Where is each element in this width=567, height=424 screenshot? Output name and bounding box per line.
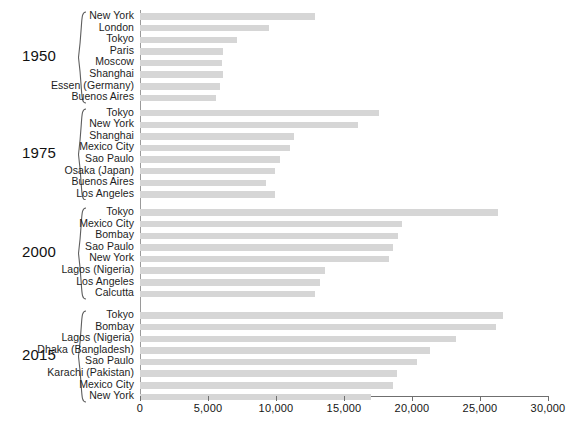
bar (140, 191, 275, 197)
chart-group-2000: 2000TokyoMexico CityBombaySao PauloNew Y… (0, 207, 567, 300)
bar (140, 37, 237, 43)
bar (140, 370, 397, 376)
bar (140, 394, 371, 400)
bar-category-label: New York (0, 118, 134, 130)
bar (140, 60, 222, 66)
bar (140, 209, 498, 215)
bar-category-label: Los Angeles (0, 188, 134, 200)
x-tick-label: 0 (105, 402, 175, 414)
bar-row: Los Angeles (0, 189, 567, 201)
bar-category-label: Karachi (Pakistan) (0, 367, 134, 379)
bar (140, 168, 275, 174)
bar (140, 133, 294, 139)
bar-category-label: Lagos (Nigeria) (0, 264, 134, 276)
x-tick-label: 20,000 (377, 402, 447, 414)
bar (140, 267, 325, 273)
x-tick (208, 396, 209, 401)
x-tick (412, 396, 413, 401)
bar-category-label: Tokyo (0, 309, 134, 321)
bar (140, 122, 358, 128)
x-tick (140, 396, 141, 401)
bar-chart: 1950New YorkLondonTokyoParisMoscowShangh… (0, 0, 567, 424)
chart-group-2015: 2015TokyoBombayLagos (Nigeria)Dhaka (Ban… (0, 310, 567, 403)
x-tick-label: 30,000 (513, 402, 567, 414)
bar-row: Buenos Aires (0, 92, 567, 104)
bar-row: Calcutta (0, 288, 567, 300)
chart-group-1975: 1975TokyoNew YorkShanghaiMexico CitySao … (0, 108, 567, 201)
x-tick-label: 25,000 (445, 402, 515, 414)
bar-category-label: Shanghai (0, 68, 134, 80)
x-tick-label: 10,000 (241, 402, 311, 414)
bar-category-label: Sao Paulo (0, 153, 134, 165)
bar (140, 13, 315, 19)
bar (140, 279, 320, 285)
bar (140, 110, 379, 116)
bar (140, 336, 456, 342)
x-tick (548, 396, 549, 401)
bar (140, 83, 220, 89)
bar (140, 244, 393, 250)
x-tick (276, 396, 277, 401)
bar (140, 359, 417, 365)
bar (140, 221, 402, 227)
bar-category-label: New York (0, 10, 134, 22)
bar-category-label: Tokyo (0, 206, 134, 218)
bar (140, 95, 216, 101)
bar (140, 233, 398, 239)
bar (140, 145, 290, 151)
chart-group-1950: 1950New YorkLondonTokyoParisMoscowShangh… (0, 11, 567, 104)
x-tick-label: 5,000 (173, 402, 243, 414)
bar-category-label: Buenos Aires (0, 91, 134, 103)
bar (140, 312, 503, 318)
bar (140, 180, 266, 186)
bar-category-label: Calcutta (0, 287, 134, 299)
x-tick (480, 396, 481, 401)
bar (140, 71, 223, 77)
x-tick (344, 396, 345, 401)
bar (140, 25, 269, 31)
bar (140, 48, 223, 54)
bar (140, 156, 280, 162)
x-tick-label: 15,000 (309, 402, 379, 414)
bar (140, 256, 389, 262)
bar (140, 347, 430, 353)
bar (140, 291, 315, 297)
bar (140, 324, 496, 330)
bar-category-label: New York (0, 390, 134, 402)
bar (140, 382, 393, 388)
